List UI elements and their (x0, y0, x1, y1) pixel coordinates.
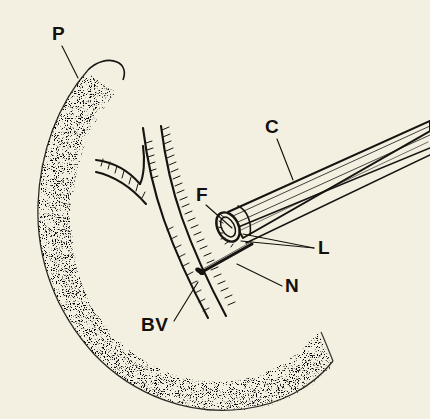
cannula-lower-edge (236, 148, 430, 228)
cannula-assembly (212, 121, 430, 247)
vessel-bifurcation (140, 146, 144, 184)
vessel-trunk-left-wall (143, 128, 208, 318)
label-L: L (318, 237, 330, 258)
label-C: C (265, 116, 279, 137)
leader-C (277, 139, 293, 180)
pancreas-shape (38, 60, 334, 411)
vessel-branch-lower-wall (96, 172, 146, 204)
leader-BV (174, 282, 198, 321)
needle-tip (199, 269, 205, 275)
label-BV: BV (141, 314, 168, 335)
blood-vessel (96, 126, 235, 318)
needle-highlight (203, 242, 251, 269)
figure-root: P C F L N BV (0, 0, 430, 419)
anatomical-illustration: P C F L N BV (0, 0, 430, 419)
label-F: F (196, 184, 208, 205)
leader-L (243, 234, 314, 248)
label-P: P (52, 23, 65, 44)
cannula-barrel (228, 121, 430, 238)
leader-P (62, 46, 78, 78)
label-N: N (285, 275, 299, 296)
needle (199, 242, 252, 275)
leader-N (237, 264, 282, 286)
pancreas-tip (88, 60, 124, 80)
